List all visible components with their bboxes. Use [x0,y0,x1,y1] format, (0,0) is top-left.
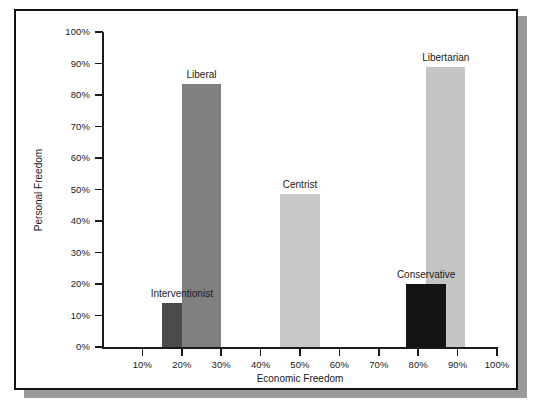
chart-frame [14,9,518,390]
chart-figure: 0%10%20%30%40%50%60%70%80%90%100%10%20%3… [0,0,534,408]
figure-shadow-right [518,16,527,398]
figure-shadow-bottom [24,389,527,398]
